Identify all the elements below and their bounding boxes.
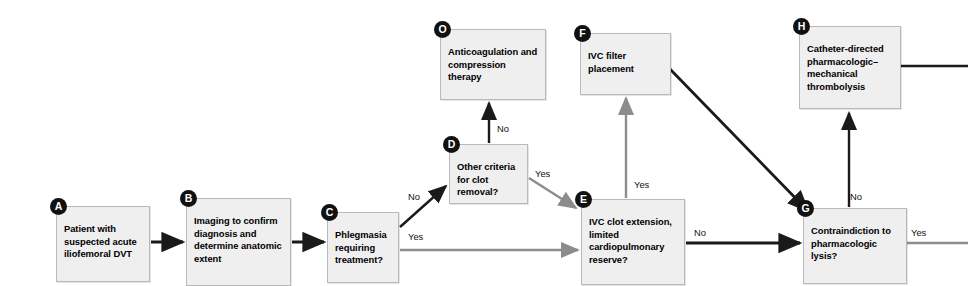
node-c-badge: C bbox=[321, 204, 338, 221]
node-o-label: Anticoagulation and compression therapy bbox=[448, 46, 540, 84]
node-f[interactable]: F IVC filter placement bbox=[580, 33, 671, 95]
node-h[interactable]: H Catheter-directed pharmacologic–mechan… bbox=[799, 26, 901, 109]
edge-d-to-e-yes bbox=[529, 178, 576, 208]
node-h-label: Catheter-directed pharmacologic–mechanic… bbox=[807, 43, 895, 93]
node-c-label: Phlegmasia requiring treatment? bbox=[335, 229, 393, 267]
edge-label-d-no: No bbox=[497, 124, 509, 134]
flowchart-canvas: A Patient with suspected acute iliofemor… bbox=[0, 0, 968, 286]
edge-label-e-no: No bbox=[694, 228, 706, 238]
node-g-label: Contraindiction to pharmacologic lysis? bbox=[811, 225, 901, 263]
node-h-badge: H bbox=[793, 18, 810, 35]
node-e-label: IVC clot extension, limited cardiopulmon… bbox=[589, 216, 679, 266]
node-o[interactable]: O Anticoagulation and compression therap… bbox=[440, 29, 546, 100]
edge-label-c-yes: Yes bbox=[408, 232, 423, 242]
node-g-badge: G bbox=[797, 200, 814, 217]
node-e-badge: E bbox=[575, 191, 592, 208]
edge-label-g-no: No bbox=[850, 192, 862, 202]
node-b-badge: B bbox=[180, 190, 197, 207]
node-c[interactable]: C Phlegmasia requiring treatment? bbox=[327, 212, 399, 283]
edge-c-to-d-no bbox=[400, 186, 446, 227]
node-e[interactable]: E IVC clot extension, limited cardiopulm… bbox=[581, 199, 685, 285]
node-a-badge: A bbox=[50, 198, 67, 215]
node-f-label: IVC filter placement bbox=[588, 50, 665, 75]
edge-label-c-no: No bbox=[408, 192, 420, 202]
node-b-label: Imaging to confirm diagnosis and determi… bbox=[194, 215, 285, 265]
node-g[interactable]: G Contraindiction to pharmacologic lysis… bbox=[803, 208, 907, 284]
node-d-label: Other criteria for clot removal? bbox=[457, 161, 522, 199]
node-b[interactable]: B Imaging to confirm diagnosis and deter… bbox=[186, 198, 291, 286]
edge-label-e-yes: Yes bbox=[634, 180, 649, 190]
node-d-badge: D bbox=[443, 136, 460, 153]
edge-label-d-yes: Yes bbox=[535, 169, 550, 179]
node-a[interactable]: A Patient with suspected acute iliofemor… bbox=[56, 206, 150, 282]
node-a-label: Patient with suspected acute iliofemoral… bbox=[64, 223, 144, 261]
edge-f-to-g bbox=[668, 67, 808, 211]
node-o-badge: O bbox=[434, 21, 451, 38]
node-f-badge: F bbox=[574, 25, 591, 42]
node-d[interactable]: D Other criteria for clot removal? bbox=[449, 144, 528, 204]
edge-label-g-yes: Yes bbox=[911, 228, 926, 238]
